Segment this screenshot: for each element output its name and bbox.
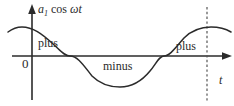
y-axis-label: a1 cos ωt <box>38 3 82 18</box>
y-axis-arrowhead <box>28 4 36 14</box>
region-label-plus-right: plus <box>176 40 196 52</box>
x-axis-arrowhead <box>222 52 232 60</box>
y-axis <box>28 4 36 100</box>
y-axis-label-function: cos <box>51 2 67 16</box>
region-label-plus-left: plus <box>38 37 58 49</box>
y-axis-label-argument: ωt <box>70 2 82 16</box>
y-axis-label-subscript: 1 <box>44 9 48 18</box>
region-label-minus: minus <box>103 60 132 72</box>
waveform-plot <box>0 0 234 106</box>
origin-label: 0 <box>22 57 29 70</box>
x-axis-label: t <box>219 74 222 86</box>
figure-container: a1 cos ωt t 0 plus minus plus <box>0 0 234 106</box>
